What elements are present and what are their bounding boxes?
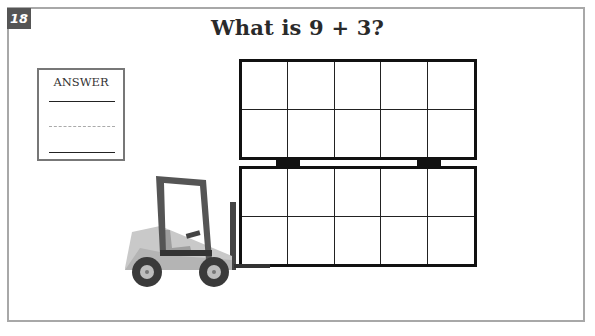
- ten-frame-cell[interactable]: [335, 110, 381, 158]
- ten-frame-cell[interactable]: [428, 169, 474, 217]
- ten-frame-top: [239, 59, 477, 160]
- ten-frame-bottom: [239, 166, 477, 267]
- ten-frame-cell[interactable]: [242, 110, 288, 158]
- answer-label: ANSWER: [39, 75, 123, 89]
- ten-frame-cell[interactable]: [288, 62, 334, 110]
- forklift-icon: [120, 170, 270, 290]
- question-title: What is 9 + 3?: [0, 15, 595, 40]
- answer-line-dashed: [49, 126, 115, 127]
- ten-frame-cell[interactable]: [335, 169, 381, 217]
- ten-frame-cell[interactable]: [428, 217, 474, 265]
- ten-frame-cell[interactable]: [335, 217, 381, 265]
- ten-frame-cell[interactable]: [381, 62, 427, 110]
- ten-frame-cell[interactable]: [335, 62, 381, 110]
- answer-line-top: [49, 101, 115, 102]
- ten-frame-cell[interactable]: [242, 62, 288, 110]
- ten-frame-cell[interactable]: [428, 62, 474, 110]
- answer-line-bottom: [49, 152, 115, 153]
- answer-box[interactable]: ANSWER: [37, 68, 125, 161]
- ten-frame-cell[interactable]: [288, 110, 334, 158]
- ten-frame-cell[interactable]: [381, 217, 427, 265]
- ten-frame-cell[interactable]: [288, 169, 334, 217]
- ten-frame-cell[interactable]: [428, 110, 474, 158]
- ten-frame-cell[interactable]: [288, 217, 334, 265]
- ten-frame-cell[interactable]: [381, 169, 427, 217]
- ten-frame-cell[interactable]: [381, 110, 427, 158]
